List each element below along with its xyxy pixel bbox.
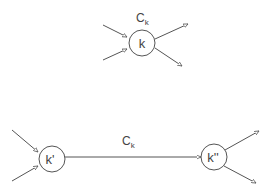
bottom-left-node-label: k' xyxy=(46,152,55,167)
top-incoming-edge-1 xyxy=(103,25,127,37)
top-node-label: k xyxy=(139,36,146,51)
top-outgoing-edge-1 xyxy=(155,24,188,39)
top-outgoing-edge-2 xyxy=(155,48,182,66)
bottom-outgoing-edge-2 xyxy=(224,166,256,183)
bottom-label: Ck xyxy=(122,134,136,150)
top-node-group: Ck k xyxy=(103,11,188,66)
top-incoming-edge-2 xyxy=(103,49,127,60)
bottom-node-group: Ck k' k'' xyxy=(12,130,259,183)
top-label: Ck xyxy=(136,11,150,27)
bottom-right-node-label: k'' xyxy=(207,150,218,165)
network-diagram: Ck k Ck k' k'' xyxy=(0,0,273,194)
bottom-incoming-edge-1 xyxy=(12,130,38,152)
bottom-incoming-edge-2 xyxy=(12,166,38,181)
bottom-outgoing-edge-1 xyxy=(225,131,259,150)
